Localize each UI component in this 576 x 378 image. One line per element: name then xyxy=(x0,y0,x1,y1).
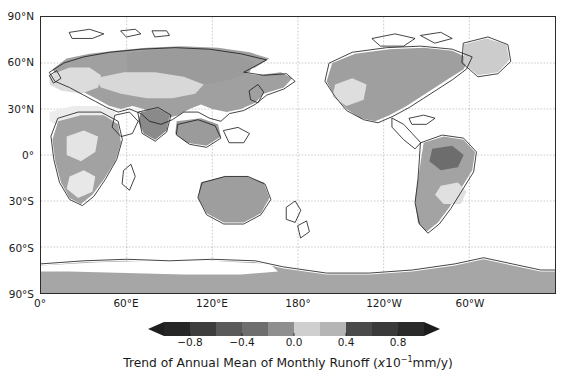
caption-unit: mm/y xyxy=(413,356,448,370)
colorbar-caption: Trend of Annual Mean of Monthly Runoff (… xyxy=(0,355,576,371)
cbar-tick-pos08: 0.8 xyxy=(368,337,428,348)
cbar-tick-pos04: 0.4 xyxy=(316,337,376,348)
caption-prefix: Trend of Annual Mean of Monthly Runoff ( xyxy=(123,356,378,370)
caption-base: 10 xyxy=(385,356,401,370)
caption-suffix: ) xyxy=(448,356,453,370)
cbar-tick-neg04: −0.4 xyxy=(212,337,272,348)
colorbar-tick-labels: −0.8 −0.4 0.0 0.4 0.8 xyxy=(0,0,576,378)
figure-canvas: 90°N 60°N 30°N 0° 30°S 60°S 90°S 0° 60°E… xyxy=(0,0,576,378)
cbar-tick-zero: 0.0 xyxy=(264,337,324,348)
caption-x: x xyxy=(378,356,385,370)
caption-exponent: −1 xyxy=(401,355,413,364)
cbar-tick-neg08: −0.8 xyxy=(160,337,220,348)
